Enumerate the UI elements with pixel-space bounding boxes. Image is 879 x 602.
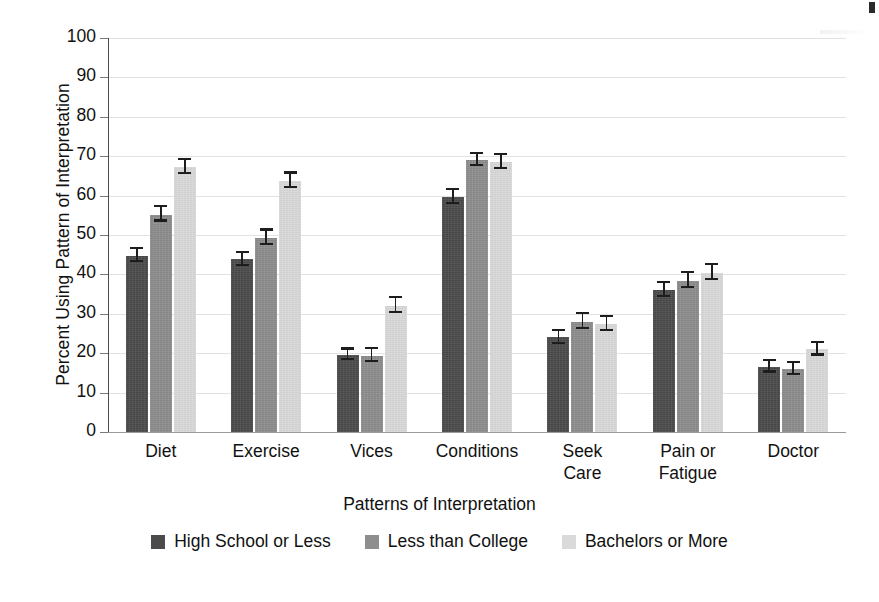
error-bar-cap-bottom (389, 311, 402, 313)
error-bar-cap-bottom (681, 286, 694, 288)
bar-fill (758, 367, 780, 432)
bar-fill (653, 290, 675, 432)
y-tick-mark-0 (100, 432, 108, 433)
bar (806, 349, 828, 432)
error-bar-cap-bottom (811, 353, 824, 355)
clipped-caption (150, 586, 870, 600)
y-tick-mark-20 (100, 353, 108, 354)
bar-fill (337, 355, 359, 432)
x-tick-label: Exercise (213, 440, 318, 462)
error-bar-cap-top (705, 263, 718, 265)
bar (782, 369, 804, 432)
bar-fill (126, 256, 148, 433)
x-axis-tick-labels: DietExerciseVicesConditionsSeek CarePain… (108, 440, 846, 500)
y-tick-label-100: 100 (36, 28, 96, 46)
error-bar-cap-top (494, 153, 507, 155)
error-bar-cap-bottom (284, 186, 297, 188)
bar (385, 306, 407, 432)
bar (677, 281, 699, 432)
legend-label: Bachelors or More (585, 531, 728, 552)
error-bar-cap-top (236, 251, 249, 253)
legend-item[interactable]: High School or Less (151, 531, 331, 552)
x-axis-title: Patterns of Interpretation (0, 494, 879, 515)
bar-fill (677, 281, 699, 432)
error-bar-cap-top (763, 359, 776, 361)
bar-fill (150, 215, 172, 432)
bar-fill (231, 259, 253, 432)
error-bar-cap-top (365, 347, 378, 349)
error-bar-cap-bottom (470, 164, 483, 166)
legend-swatch-icon (151, 535, 165, 549)
y-tick-label-20: 20 (36, 343, 96, 361)
y-tick-mark-100 (100, 38, 108, 39)
chart-legend: High School or LessLess than CollegeBach… (0, 531, 879, 552)
bar (701, 273, 723, 432)
error-bar-cap-top (470, 152, 483, 154)
bar (255, 238, 277, 432)
bar-group (319, 38, 424, 432)
error-bar-cap-bottom (178, 172, 191, 174)
error-bar-cap-top (576, 312, 589, 314)
bar (758, 367, 780, 432)
y-tick-mark-50 (100, 235, 108, 236)
bar-fill (255, 238, 277, 432)
bar-group (424, 38, 529, 432)
bar-fill (782, 369, 804, 432)
y-tick-label-50: 50 (36, 225, 96, 243)
y-tick-label-80: 80 (36, 107, 96, 125)
error-bar-cap-top (178, 158, 191, 160)
x-tick-label: Diet (108, 440, 213, 462)
bar-fill (806, 349, 828, 432)
error-bar-cap-bottom (494, 167, 507, 169)
bar (547, 337, 569, 432)
error-bar-cap-top (389, 296, 402, 298)
error-bar-cap-top (341, 347, 354, 349)
bar-fill (701, 273, 723, 432)
error-bar-cap-bottom (576, 327, 589, 329)
error-bar-cap-bottom (446, 202, 459, 204)
error-bar-cap-bottom (787, 373, 800, 375)
bar-group (530, 38, 635, 432)
x-tick-label: Vices (319, 440, 424, 462)
error-bar-cap-bottom (763, 370, 776, 372)
legend-item[interactable]: Bachelors or More (562, 531, 728, 552)
y-tick-mark-70 (100, 156, 108, 157)
legend-item[interactable]: Less than College (365, 531, 528, 552)
bar (595, 324, 617, 432)
y-tick-label-30: 30 (36, 304, 96, 322)
bar-fill (361, 356, 383, 432)
bar (231, 259, 253, 432)
error-bar-cap-bottom (600, 329, 613, 331)
bar (490, 162, 512, 432)
error-bar-cap-top (681, 271, 694, 273)
error-bar-cap-top (284, 171, 297, 173)
bar-fill (279, 181, 301, 432)
error-bar-cap-bottom (705, 278, 718, 280)
bar (466, 160, 488, 432)
bar (442, 197, 464, 432)
legend-swatch-icon (365, 535, 379, 549)
x-tick-label: Conditions (424, 440, 529, 462)
error-bar-cap-top (446, 188, 459, 190)
bar (337, 355, 359, 432)
error-bar-cap-bottom (365, 360, 378, 362)
error-bar-cap-bottom (236, 264, 249, 266)
error-bar-cap-top (811, 341, 824, 343)
error-bar-cap-top (130, 247, 143, 249)
bar-fill (442, 197, 464, 432)
y-tick-label-60: 60 (36, 186, 96, 204)
bar-group (635, 38, 740, 432)
x-tick-label: Seek Care (530, 440, 635, 484)
y-tick-label-10: 10 (36, 383, 96, 401)
bar (174, 167, 196, 432)
bar-fill (490, 162, 512, 432)
bar-group (741, 38, 846, 432)
y-tick-label-40: 40 (36, 264, 96, 282)
y-tick-mark-10 (100, 393, 108, 394)
bar (126, 256, 148, 433)
error-bar-cap-bottom (260, 243, 273, 245)
bar (653, 290, 675, 432)
y-tick-mark-90 (100, 77, 108, 78)
error-bar-cap-top (787, 361, 800, 363)
error-bar-cap-top (260, 228, 273, 230)
